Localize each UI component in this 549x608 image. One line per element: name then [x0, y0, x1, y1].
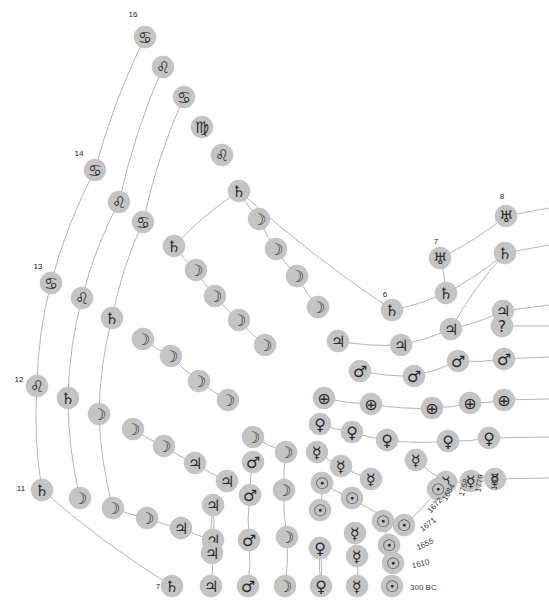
node-sun[interactable]: ☉ [341, 487, 363, 509]
node-moon[interactable]: ☽ [136, 507, 158, 529]
node-saturn[interactable]: ♄ [435, 282, 457, 304]
node-jupiter[interactable]: ♃ [200, 575, 222, 597]
node-venus[interactable]: ♀ [341, 421, 363, 443]
node-saturn[interactable]: ♄ [163, 235, 185, 257]
node-uranus[interactable]: ♅ [495, 205, 517, 227]
node-cancer[interactable]: ♋ [134, 26, 156, 48]
node-venus[interactable]: ♀ [309, 537, 331, 559]
edge-n19-n26 [37, 283, 51, 386]
node-moon[interactable]: ☽ [307, 296, 329, 318]
node-mars[interactable]: ♂ [242, 451, 264, 473]
node-mercury[interactable]: ☿ [306, 441, 328, 463]
earth-glyph-icon: ⊕ [463, 394, 476, 413]
node-saturn[interactable]: ♄ [161, 575, 183, 597]
node-mercury[interactable]: ☿ [346, 545, 368, 567]
node-uranus[interactable]: ♅ [429, 247, 451, 269]
node-mars[interactable]: ♂ [349, 360, 371, 382]
node-jupiter[interactable]: ♃ [202, 494, 224, 516]
node-mars[interactable]: ♂ [239, 484, 261, 506]
node-sun[interactable]: ☉ [381, 575, 403, 597]
node-mercury[interactable]: ☿ [360, 468, 382, 490]
node-moon[interactable]: ☽ [228, 309, 250, 331]
node-mars[interactable]: ♂ [493, 348, 515, 370]
node-moon[interactable]: ☽ [275, 441, 297, 463]
node-moon[interactable]: ☽ [273, 479, 295, 501]
node-mercury[interactable]: ☿ [346, 575, 368, 597]
node-question[interactable]: ? [491, 315, 513, 337]
saturn-glyph-icon: ♄ [35, 481, 49, 500]
node-saturn[interactable]: ♄ [381, 299, 403, 321]
node-jupiter[interactable]: ♃ [201, 542, 223, 564]
node-saturn[interactable]: ♄ [57, 387, 79, 409]
node-venus[interactable]: ♀ [478, 427, 500, 449]
node-jupiter[interactable]: ♃ [440, 318, 462, 340]
node-venus[interactable]: ♀ [309, 413, 331, 435]
saturn-glyph-icon: ♄ [439, 284, 453, 303]
node-venus[interactable]: ♀ [376, 429, 398, 451]
node-venus[interactable]: ♀ [310, 575, 332, 597]
node-moon[interactable]: ☽ [242, 426, 264, 448]
node-moon[interactable]: ☽ [122, 418, 144, 440]
node-saturn[interactable]: ♄ [101, 307, 123, 329]
saturn-glyph-icon: ♄ [61, 389, 75, 408]
node-cancer[interactable]: ♋ [173, 86, 195, 108]
node-virgo[interactable]: ♍ [191, 116, 213, 138]
moon-glyph-icon: ☽ [126, 420, 140, 439]
node-mercury[interactable]: ☿ [405, 449, 427, 471]
node-leo[interactable]: ♌ [108, 191, 130, 213]
node-sun[interactable]: ☉ [372, 510, 394, 532]
node-moon[interactable]: ☽ [254, 334, 276, 356]
node-mercury[interactable]: ☿ [330, 455, 352, 477]
cancer-glyph-icon: ♋ [177, 88, 191, 107]
node-moon[interactable]: ☽ [274, 575, 296, 597]
node-mercury[interactable]: ☿ [344, 522, 366, 544]
node-cancer[interactable]: ♋ [84, 159, 106, 181]
node-sun[interactable]: ☉ [309, 499, 331, 521]
edge-n26-n33 [36, 386, 42, 490]
node-leo[interactable]: ♌ [26, 375, 48, 397]
node-venus[interactable]: ♀ [437, 430, 459, 452]
node-leo[interactable]: ♌ [211, 144, 233, 166]
node-moon[interactable]: ☽ [69, 487, 91, 509]
node-earth[interactable]: ⊕ [421, 397, 443, 419]
node-jupiter[interactable]: ♃ [216, 470, 238, 492]
node-moon[interactable]: ☽ [185, 259, 207, 281]
node-moon[interactable]: ☽ [102, 497, 124, 519]
cancer-glyph-icon: ♋ [136, 213, 150, 232]
node-sun[interactable]: ☉ [311, 472, 333, 494]
node-earth[interactable]: ⊕ [459, 392, 481, 414]
node-sun[interactable]: ☉ [382, 552, 404, 574]
node-moon[interactable]: ☽ [248, 208, 270, 230]
node-moon[interactable]: ☽ [265, 238, 287, 260]
node-moon[interactable]: ☽ [188, 370, 210, 392]
node-cancer[interactable]: ♋ [40, 272, 62, 294]
mercury-glyph-icon: ☿ [350, 524, 360, 543]
node-moon[interactable]: ☽ [217, 389, 239, 411]
mercury-glyph-icon: ☿ [411, 451, 421, 470]
node-mars[interactable]: ♂ [237, 575, 259, 597]
node-mars[interactable]: ♂ [447, 350, 469, 372]
node-earth[interactable]: ⊕ [493, 389, 515, 411]
node-leo[interactable]: ♌ [71, 287, 93, 309]
node-leo[interactable]: ♌ [152, 56, 174, 78]
node-earth[interactable]: ⊕ [360, 393, 382, 415]
node-saturn[interactable]: ♄ [31, 479, 53, 501]
node-cancer[interactable]: ♋ [132, 211, 154, 233]
node-moon[interactable]: ☽ [276, 526, 298, 548]
node-moon[interactable]: ☽ [132, 328, 154, 350]
node-sun[interactable]: ☉ [393, 514, 415, 536]
node-saturn[interactable]: ♄ [228, 180, 250, 202]
node-jupiter[interactable]: ♃ [184, 452, 206, 474]
node-jupiter[interactable]: ♃ [170, 517, 192, 539]
node-jupiter[interactable]: ♃ [390, 334, 412, 356]
node-jupiter[interactable]: ♃ [327, 330, 349, 352]
node-moon[interactable]: ☽ [88, 403, 110, 425]
node-mars[interactable]: ♂ [403, 365, 425, 387]
node-moon[interactable]: ☽ [160, 345, 182, 367]
node-mars[interactable]: ♂ [238, 529, 260, 551]
node-moon[interactable]: ☽ [286, 265, 308, 287]
node-moon[interactable]: ☽ [153, 435, 175, 457]
node-earth[interactable]: ⊕ [313, 387, 335, 409]
node-moon[interactable]: ☽ [204, 285, 226, 307]
node-saturn[interactable]: ♄ [494, 242, 516, 264]
